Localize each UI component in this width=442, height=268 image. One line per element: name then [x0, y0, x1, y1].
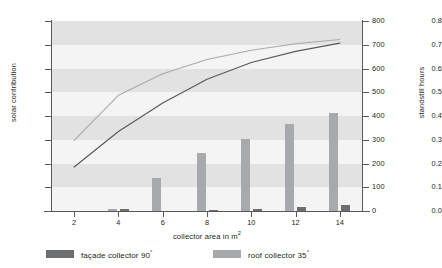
y-axis-right-tick-label: 500 — [372, 88, 404, 95]
legend-label-text: roof collector 35 — [248, 251, 307, 260]
y-axis-right-tick — [363, 69, 369, 70]
legend-item: façade collector 90° — [46, 248, 153, 260]
y-axis-right-tick — [363, 21, 369, 22]
y-axis-left-title: solar contribution — [9, 33, 18, 153]
chart-legend: façade collector 90°roof collector 35° — [0, 244, 442, 266]
line-series — [74, 43, 340, 167]
y-axis-left-tick — [45, 164, 51, 165]
y-axis-right-tick-label: 700 — [372, 41, 404, 48]
y-axis-right-tick — [363, 92, 369, 93]
legend-label-degree: ° — [150, 249, 153, 255]
y-axis-left-tick — [45, 140, 51, 141]
y-axis-left-tick — [45, 69, 51, 70]
chart-figure: 0.00.10.20.30.40.50.60.70.8 010020030040… — [0, 0, 442, 268]
legend-label: roof collector 35° — [248, 248, 309, 260]
y-axis-right-tick-label: 400 — [372, 112, 404, 119]
y-axis-left-tick — [45, 92, 51, 93]
y-axis-right-tick — [363, 45, 369, 46]
y-axis-right-tick-label: 100 — [372, 183, 404, 190]
x-axis-tick — [163, 212, 164, 217]
y-axis-right-tick-label: 800 — [372, 17, 404, 24]
legend-label: façade collector 90° — [81, 248, 153, 260]
y-axis-left-tick — [45, 21, 51, 22]
x-axis-tick — [118, 212, 119, 217]
x-axis-tick — [207, 212, 208, 217]
legend-item: roof collector 35° — [213, 248, 309, 260]
legend-swatch — [213, 250, 241, 258]
y-axis-right-tick-label: 300 — [372, 136, 404, 143]
x-axis-tick — [251, 212, 252, 217]
x-axis-title-superscript: 2 — [238, 230, 241, 236]
y-axis-right-tick-label: 600 — [372, 65, 404, 72]
y-axis-left-tick — [45, 116, 51, 117]
line-series-layer — [52, 21, 362, 211]
x-axis-tick — [74, 212, 75, 217]
x-axis-tick-label: 8 — [192, 219, 222, 227]
y-axis-right-tick — [363, 211, 369, 212]
y-axis-left-tick — [45, 187, 51, 188]
y-axis-left-tick-label: 0.1 — [398, 183, 442, 190]
x-axis-title: collector area in m2 — [52, 230, 362, 241]
x-axis-tick-label: 12 — [281, 219, 311, 227]
line-series — [74, 40, 340, 141]
x-axis-tick-label: 10 — [236, 219, 266, 227]
y-axis-right-tick-label: 0 — [372, 207, 404, 214]
legend-swatch — [46, 250, 74, 258]
x-axis-tick — [340, 212, 341, 217]
y-axis-right-tick — [363, 164, 369, 165]
x-axis-title-text: collector area in m — [173, 232, 238, 241]
x-axis-tick-label: 4 — [103, 219, 133, 227]
x-axis-tick-label: 14 — [325, 219, 355, 227]
y-axis-right-title: standstill hours — [417, 33, 426, 153]
y-axis-right-tick — [363, 116, 369, 117]
x-axis-tick-label: 6 — [148, 219, 178, 227]
x-axis-tick — [296, 212, 297, 217]
plot-area — [52, 21, 362, 211]
y-axis-right-tick-label: 200 — [372, 160, 404, 167]
x-axis-tick-label: 2 — [59, 219, 89, 227]
y-axis-right-tick — [363, 140, 369, 141]
y-axis-right-tick — [363, 187, 369, 188]
y-axis-left-tick-label: 0.0 — [398, 207, 442, 214]
y-axis-left-line — [51, 20, 52, 212]
legend-label-text: façade collector 90 — [81, 251, 150, 260]
y-axis-left-tick — [45, 211, 51, 212]
y-axis-left-tick-label: 0.2 — [398, 160, 442, 167]
legend-label-degree: ° — [307, 249, 310, 255]
y-axis-left-tick — [45, 45, 51, 46]
y-axis-left-tick-label: 0.8 — [398, 17, 442, 24]
